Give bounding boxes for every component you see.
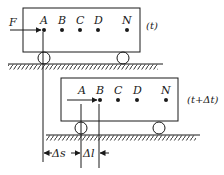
bottom-point-n-dot: [164, 98, 168, 102]
bottom-ground-hatch: [46, 136, 196, 141]
cart-diagram: A B C D N F (t) A B C D N (t+Δt): [0, 0, 224, 175]
top-point-c-label: C: [76, 14, 85, 27]
bottom-point-c-dot: [116, 98, 120, 102]
top-point-b-dot: [60, 28, 64, 32]
top-point-a-dot: [42, 28, 46, 32]
top-point-b-label: B: [57, 14, 66, 27]
top-wheel-left: [38, 52, 50, 64]
bottom-point-b-dot: [98, 98, 102, 102]
top-ground-hatch: [8, 65, 158, 70]
top-time-label: (t): [146, 20, 158, 31]
delta-s-label: Δs: [51, 147, 66, 160]
bottom-wheel-right: [153, 122, 165, 134]
top-point-d-dot: [96, 28, 100, 32]
top-point-n-dot: [125, 28, 129, 32]
bottom-point-c-label: C: [114, 84, 123, 97]
delta-l-label: Δl: [82, 147, 95, 160]
bottom-point-a-label: A: [77, 84, 86, 97]
top-cart: A B C D N F (t): [8, 8, 163, 70]
top-point-d-label: D: [93, 14, 103, 27]
bottom-point-b-label: B: [95, 84, 104, 97]
bottom-time-label: (t+Δt): [187, 94, 219, 105]
top-wheel-right: [117, 52, 129, 64]
force-label: F: [8, 16, 17, 29]
top-point-c-dot: [78, 28, 82, 32]
bottom-point-d-dot: [135, 98, 139, 102]
bottom-point-n-label: N: [160, 84, 171, 97]
bottom-cart: A B C D N (t+Δt): [46, 78, 219, 141]
bottom-point-d-label: D: [132, 84, 142, 97]
top-point-a-label: A: [39, 14, 48, 27]
top-point-n-label: N: [121, 14, 132, 27]
